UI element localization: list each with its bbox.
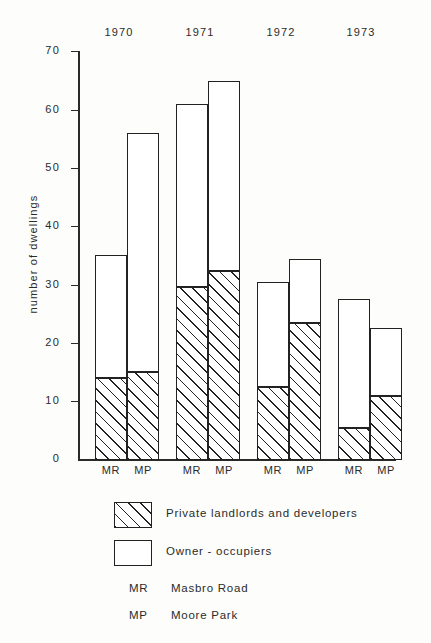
bar-segment-owner-occupiers xyxy=(257,282,289,387)
white-swatch-icon xyxy=(114,540,152,566)
y-tick-70 xyxy=(71,51,78,52)
y-tick-20 xyxy=(71,343,78,344)
bar-label-1970-mr: MR xyxy=(95,464,127,476)
bar-segment-private-landlords xyxy=(208,271,240,460)
bar-1970-mr xyxy=(95,255,127,460)
bar-label-1970-mp: MP xyxy=(127,464,159,476)
abbreviation-value-mr: Masbro Road xyxy=(171,582,248,594)
bar-segment-owner-occupiers xyxy=(176,104,208,287)
y-axis-line xyxy=(78,51,80,460)
y-tick-10 xyxy=(71,401,78,402)
y-tick-30 xyxy=(71,285,78,286)
bar-segment-private-landlords xyxy=(127,372,159,460)
bar-segment-owner-occupiers xyxy=(370,328,402,396)
bar-label-1971-mr: MR xyxy=(176,464,208,476)
bar-segment-private-landlords xyxy=(338,428,370,460)
abbreviation-mp: MP Moore Park xyxy=(129,609,429,631)
bar-1972-mp xyxy=(289,259,321,460)
y-tick-label-0: 0 xyxy=(26,453,60,464)
bar-segment-private-landlords xyxy=(289,323,321,460)
y-tick-40 xyxy=(71,226,78,227)
abbreviation-key-mr: MR xyxy=(129,582,163,594)
bar-1973-mp xyxy=(370,328,402,460)
abbreviation-mr: MR Masbro Road xyxy=(129,582,429,604)
hatched-swatch-icon xyxy=(114,502,152,528)
y-tick-label-60: 60 xyxy=(26,104,60,115)
bar-label-1972-mr: MR xyxy=(257,464,289,476)
y-tick-label-10: 10 xyxy=(26,395,60,406)
bar-segment-owner-occupiers xyxy=(127,133,159,372)
abbreviation-key-mp: MP xyxy=(129,609,163,621)
bar-segment-owner-occupiers xyxy=(289,259,321,323)
bar-label-1973-mr: MR xyxy=(338,464,370,476)
bar-1973-mr xyxy=(338,299,370,460)
plot-area: 70 60 50 40 30 20 10 0 number of dwellin… xyxy=(0,0,431,480)
bar-segment-private-landlords xyxy=(257,387,289,460)
legend-entry-private-landlords: Private landlords and developers xyxy=(114,502,414,532)
bar-segment-owner-occupiers xyxy=(95,255,127,378)
bar-segment-owner-occupiers xyxy=(208,81,240,271)
bar-1970-mp xyxy=(127,133,159,460)
y-tick-60 xyxy=(71,110,78,111)
bar-label-1973-mp: MP xyxy=(370,464,402,476)
bar-label-1971-mp: MP xyxy=(208,464,240,476)
y-axis-title: number of dwellings xyxy=(27,169,39,339)
chart-legend: Private landlords and developers Owner -… xyxy=(0,494,431,643)
bar-label-1972-mp: MP xyxy=(289,464,321,476)
legend-label-owner-occupiers: Owner - occupiers xyxy=(166,545,272,557)
y-tick-50 xyxy=(71,168,78,169)
bar-segment-private-landlords xyxy=(95,378,127,460)
legend-label-private-landlords: Private landlords and developers xyxy=(166,507,358,519)
bar-segment-owner-occupiers xyxy=(338,299,370,428)
abbreviation-value-mp: Moore Park xyxy=(171,609,238,621)
y-tick-label-70: 70 xyxy=(26,45,60,56)
bar-segment-private-landlords xyxy=(176,287,208,460)
legend-entry-owner-occupiers: Owner - occupiers xyxy=(114,540,414,570)
bar-1971-mr xyxy=(176,104,208,460)
bar-1972-mr xyxy=(257,282,289,460)
bar-segment-private-landlords xyxy=(370,396,402,460)
bar-chart-figure: 1970 1971 1972 1973 70 60 50 40 30 20 10… xyxy=(0,0,431,643)
bar-1971-mp xyxy=(208,81,240,460)
